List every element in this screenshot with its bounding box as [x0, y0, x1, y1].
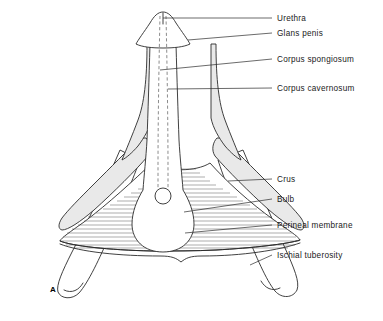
- label-crus: Crus: [277, 175, 295, 184]
- label-urethra: Urethra: [277, 14, 306, 23]
- label-corpus-cavernosum: Corpus cavernosum: [277, 84, 355, 93]
- panel-marker-a: A: [50, 285, 56, 294]
- diagram-canvas: Urethra Glans penis Corpus spongiosum Co…: [0, 0, 383, 321]
- label-ischial-tuberosity: Ischial tuberosity: [277, 251, 343, 260]
- label-corpus-spongiosum: Corpus spongiosum: [277, 55, 354, 64]
- label-glans-penis: Glans penis: [277, 29, 323, 38]
- leader-glans-penis: [188, 33, 272, 40]
- label-perineal-membrane: Perineal membrane: [277, 221, 353, 230]
- label-bulb: Bulb: [277, 195, 295, 204]
- leader-corpus-cavernosum: [168, 88, 272, 89]
- anatomical-figure: Urethra Glans penis Corpus spongiosum Co…: [0, 0, 383, 321]
- glans-penis: [136, 12, 190, 48]
- label-group: Urethra Glans penis Corpus spongiosum Co…: [277, 14, 355, 260]
